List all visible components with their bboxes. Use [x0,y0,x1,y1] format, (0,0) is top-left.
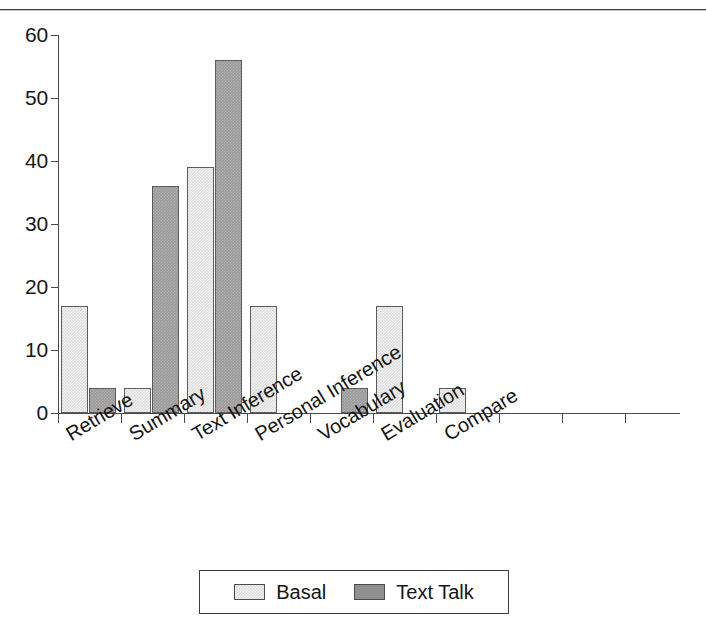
y-axis-tick-label: 60 [4,24,48,45]
legend-entry-basal: Basal [234,582,326,602]
y-axis-tick-label: 50 [4,87,48,108]
bar-basal-retrieve [61,306,88,413]
y-axis-tick [51,287,59,288]
y-axis-tick [51,98,59,99]
legend-label-basal: Basal [276,582,326,602]
basal-swatch-icon [234,584,265,600]
top-horizontal-rule [0,9,706,10]
y-axis-tick [51,161,59,162]
x-axis-tick [562,414,563,423]
y-axis-tick-label: 40 [4,150,48,171]
y-axis-tick-label: 30 [4,213,48,234]
y-axis-tick-label: 0 [4,402,48,423]
bar-text-talk-text-inference [215,60,242,413]
y-axis-tick-label: 20 [4,276,48,297]
x-axis-tick [625,414,626,423]
y-axis-tick-label: 10 [4,339,48,360]
clipped-header-text [0,0,706,4]
chart-legend: Basal Text Talk [199,570,509,614]
y-axis-tick [51,350,59,351]
y-axis-tick [51,35,59,36]
legend-label-text-talk: Text Talk [396,582,473,602]
x-axis-tick [58,414,59,423]
legend-entry-text-talk: Text Talk [354,582,473,602]
y-axis-tick [51,224,59,225]
bar-text-talk-summary [152,186,179,413]
bar-chart: 0102030405060 RetrieveSummaryText Infere… [0,14,706,629]
bar-basal-text-inference [187,167,214,413]
text-talk-swatch-icon [354,584,385,600]
